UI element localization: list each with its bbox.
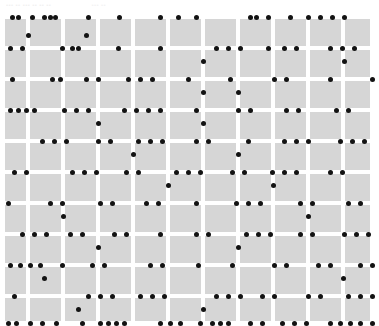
grid-cell bbox=[30, 143, 61, 170]
grid-cell bbox=[275, 205, 306, 232]
grid-cell bbox=[135, 19, 166, 46]
grid-cell bbox=[170, 236, 201, 263]
grid-cell bbox=[240, 298, 271, 321]
grid-cell bbox=[30, 81, 61, 108]
grid-cell bbox=[310, 19, 341, 46]
grid-cell bbox=[65, 81, 96, 108]
grid-cell bbox=[345, 19, 370, 46]
grid-cell bbox=[170, 298, 201, 321]
grid-cell bbox=[205, 112, 236, 139]
grid-cell bbox=[30, 19, 61, 46]
grid-cell bbox=[345, 298, 370, 321]
grid-cell bbox=[275, 50, 306, 77]
grid-cell bbox=[240, 19, 271, 46]
grid-cell bbox=[100, 236, 131, 263]
grid-cell bbox=[30, 298, 61, 321]
grid-cell bbox=[135, 112, 166, 139]
grid-cell bbox=[65, 267, 96, 294]
grid-cell bbox=[205, 143, 236, 170]
grid-cell bbox=[170, 143, 201, 170]
grid-cell bbox=[275, 112, 306, 139]
grid-cell bbox=[240, 143, 271, 170]
grid-cell bbox=[65, 298, 96, 321]
grid-cell bbox=[100, 205, 131, 232]
grid-cell bbox=[65, 19, 96, 46]
grid-cell bbox=[5, 50, 26, 77]
grid-cell bbox=[205, 50, 236, 77]
grid-cell bbox=[100, 143, 131, 170]
grid-cell bbox=[5, 19, 26, 46]
grid-cell bbox=[275, 143, 306, 170]
grid-cell bbox=[100, 298, 131, 321]
grid-cell bbox=[100, 19, 131, 46]
grid-cell bbox=[5, 143, 26, 170]
grid-cell bbox=[240, 50, 271, 77]
grid-cell bbox=[135, 174, 166, 201]
grid-cell bbox=[135, 298, 166, 321]
grid-cell bbox=[5, 174, 26, 201]
grid-cell bbox=[205, 174, 236, 201]
grid-cell bbox=[240, 236, 271, 263]
grid-cell bbox=[5, 205, 26, 232]
grid-cell bbox=[240, 205, 271, 232]
grid-cell bbox=[205, 236, 236, 263]
grid-cell bbox=[100, 112, 131, 139]
grid-cell bbox=[135, 143, 166, 170]
grid-cell bbox=[65, 143, 96, 170]
grid-cell bbox=[5, 298, 26, 321]
grid-cell bbox=[100, 267, 131, 294]
grid-cell bbox=[135, 50, 166, 77]
grid-cell bbox=[345, 205, 370, 232]
grid-cell bbox=[310, 143, 341, 170]
header-caption-left: ••• •• ••• •• •• •• bbox=[6, 1, 51, 10]
grid-cell bbox=[275, 174, 306, 201]
grid-cell bbox=[275, 19, 306, 46]
grid-cell bbox=[275, 267, 306, 294]
grid-cell bbox=[205, 298, 236, 321]
grid-cell bbox=[5, 112, 26, 139]
grid-cell bbox=[65, 236, 96, 263]
grid-cell bbox=[345, 143, 370, 170]
grid-cell bbox=[345, 267, 370, 294]
grid-cell bbox=[170, 112, 201, 139]
grid-cell bbox=[310, 267, 341, 294]
grid-cell bbox=[205, 205, 236, 232]
grid-cell bbox=[65, 112, 96, 139]
grid-cell bbox=[65, 174, 96, 201]
grid-cell bbox=[170, 19, 201, 46]
grid-cell bbox=[30, 236, 61, 263]
grid-cell bbox=[30, 205, 61, 232]
grid-cell bbox=[240, 267, 271, 294]
grid-cell bbox=[205, 267, 236, 294]
header-caption-right: ••• •• bbox=[91, 1, 106, 10]
header-caption: ••• •• ••• •• •• •• ••• •• bbox=[6, 1, 226, 10]
grid-cell bbox=[345, 81, 370, 108]
grid-cell bbox=[135, 236, 166, 263]
grid-cell bbox=[310, 174, 341, 201]
grid-cell bbox=[170, 50, 201, 77]
grid-cell bbox=[170, 205, 201, 232]
scatter-plot-area bbox=[0, 12, 379, 323]
grid-cell bbox=[5, 267, 26, 294]
grid-cell bbox=[30, 174, 61, 201]
grid-cell bbox=[65, 205, 96, 232]
grid-cell bbox=[135, 205, 166, 232]
grid-cell bbox=[135, 81, 166, 108]
grid-cell bbox=[275, 236, 306, 263]
grid-cell bbox=[170, 81, 201, 108]
grid-cell bbox=[205, 81, 236, 108]
grid-cell-layer bbox=[0, 12, 379, 323]
grid-cell bbox=[65, 50, 96, 77]
grid-cell bbox=[275, 298, 306, 321]
grid-cell bbox=[345, 112, 370, 139]
grid-cell bbox=[100, 174, 131, 201]
grid-cell bbox=[310, 298, 341, 321]
grid-cell bbox=[310, 236, 341, 263]
grid-cell bbox=[170, 267, 201, 294]
grid-cell bbox=[5, 81, 26, 108]
grid-cell bbox=[30, 112, 61, 139]
grid-cell bbox=[5, 236, 26, 263]
grid-cell bbox=[345, 236, 370, 263]
grid-cell bbox=[345, 174, 370, 201]
